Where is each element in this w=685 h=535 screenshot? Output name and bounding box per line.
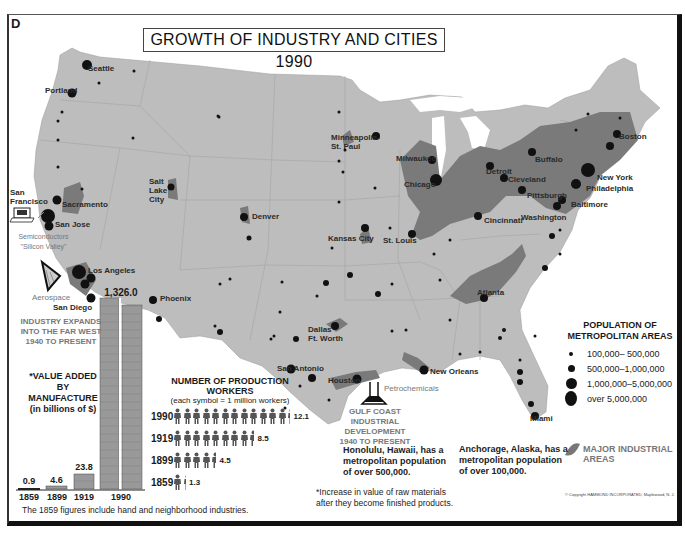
workers-year: 1899: [151, 455, 173, 466]
workers-row: 199012.1: [151, 405, 309, 427]
bar-value-1859: 0.9: [18, 476, 40, 486]
worker-icon: [211, 430, 220, 446]
worker-icon: [202, 408, 211, 424]
city-label: Cincinnati: [484, 216, 523, 225]
city-label: San Jose: [55, 220, 90, 229]
worker-icon: [259, 408, 268, 424]
legend-item-label: 100,000– 500,000: [587, 349, 660, 359]
workers-chart-title: NUMBER OF PRODUCTION WORKERS: [160, 376, 300, 396]
legend-item: 100,000– 500,000: [565, 346, 675, 361]
city-label: Salt Lake City: [149, 177, 167, 204]
worker-icon: [202, 430, 211, 446]
city-label: Portland: [45, 86, 77, 95]
partial-worker-icon: [249, 430, 254, 446]
worker-icon: [268, 408, 277, 424]
partial-worker-icon: [183, 474, 186, 490]
workers-year: 1990: [151, 411, 173, 422]
silicon-valley-label: Semiconductors "Silicon Valley": [6, 232, 81, 252]
city-label: Denver: [252, 212, 279, 221]
city-label: San Antonio: [277, 364, 324, 373]
industrial-areas-legend-label: MAJOR INDUSTRIAL AREAS: [583, 444, 673, 464]
workers-pictogram: 199012.119198.518994.518591.3: [151, 405, 309, 493]
partial-worker-icon: [211, 452, 216, 468]
city-label: Boston: [619, 132, 647, 141]
legend-title: POPULATION OF METROPOLITAN AREAS: [565, 320, 675, 342]
legend-item-label: over 5,000,000: [587, 394, 647, 404]
city-label: San Francisco: [10, 188, 48, 206]
honolulu-note: Honolulu, Hawaii, has a metropolitan pop…: [343, 445, 458, 478]
city-label: Chicago: [404, 180, 436, 189]
city-label: New York: [597, 173, 633, 182]
legend-item-label: 1,000,000–5,000,000: [587, 379, 672, 389]
bar-year-1919: 1919: [72, 492, 96, 502]
city-label: Dallas Ft. Worth: [308, 325, 343, 343]
workers-year: 1859: [151, 477, 173, 488]
bar-value-1990: 1,326.0: [95, 287, 147, 298]
petrochemicals-label: Petrochemicals: [384, 384, 439, 394]
worker-icon: [183, 452, 192, 468]
worker-icon: [221, 430, 230, 446]
copyright: © Copyright HAMMOND INCORPORATED, Maplew…: [565, 492, 675, 497]
population-dot-icon: [568, 365, 575, 372]
legend-item: 1,000,000–5,000,000: [565, 376, 675, 391]
raw-materials-footnote: *Increase in value of raw materials afte…: [316, 487, 476, 509]
worker-icon: [183, 430, 192, 446]
worker-icon: [173, 452, 182, 468]
far-west-note: INDUSTRY EXPANDS INTO THE FAR WEST 1940 …: [20, 317, 102, 347]
workers-year: 1919: [151, 433, 173, 444]
worker-icon: [173, 474, 182, 490]
workers-value: 1.3: [189, 478, 200, 487]
workers-value: 8.5: [258, 434, 269, 443]
city-label: Philadelphia: [586, 184, 633, 193]
population-dot-icon: [569, 352, 573, 356]
worker-icon: [192, 408, 201, 424]
city-label: New Orleans: [430, 367, 478, 376]
panel-letter: D: [11, 16, 20, 31]
city-label: Houston: [328, 376, 360, 385]
worker-icon: [249, 408, 258, 424]
city-label: Seattle: [88, 64, 114, 73]
worker-icon: [240, 430, 249, 446]
bar-value-1919: 23.8: [74, 462, 94, 472]
workers-value: 12.1: [294, 412, 310, 421]
city-label: Pittsburgh: [527, 191, 567, 200]
population-legend: POPULATION OF METROPOLITAN AREAS 100,000…: [565, 320, 675, 406]
population-dot-icon: [566, 378, 577, 389]
legend-rows: 100,000– 500,000500,000–1,000,0001,000,0…: [565, 346, 675, 406]
workers-row: 18591.3: [151, 471, 309, 493]
worker-icon: [202, 452, 211, 468]
city-label: Kansas City: [328, 234, 374, 243]
map-title: GROWTH OF INDUSTRY AND CITIES 1990: [143, 28, 445, 52]
worker-icon: [240, 408, 249, 424]
city-label: Washington: [521, 213, 566, 222]
worker-icon: [211, 408, 220, 424]
city-label: Milwaukee: [396, 154, 436, 163]
bar-year-1990: 1990: [108, 492, 134, 502]
city-label: Minneapolis- St. Paul: [331, 133, 380, 151]
footnote-1859: The 1859 figures include hand and neighb…: [22, 505, 248, 516]
bar-year-1899: 1899: [45, 492, 69, 502]
bar-chart-title: *VALUE ADDED BY MANUFACTURE (in billions…: [24, 371, 102, 415]
worker-icon: [230, 430, 239, 446]
flask-icon: [362, 382, 386, 404]
aerospace-label: Aerospace: [32, 293, 70, 303]
workers-chart-header: NUMBER OF PRODUCTION WORKERS (each symbo…: [160, 376, 300, 406]
population-dot-icon: [565, 391, 577, 406]
city-label: Sacramento: [62, 200, 108, 209]
city-label: Miami: [530, 414, 553, 423]
legend-item: over 5,000,000: [565, 391, 675, 406]
worker-icon: [173, 430, 182, 446]
bar-year-1859: 1859: [17, 492, 41, 502]
worker-icon: [173, 408, 182, 424]
worker-icon: [192, 430, 201, 446]
worker-icon: [278, 408, 287, 424]
workers-value: 4.5: [220, 456, 231, 465]
worker-icon: [192, 452, 201, 468]
gulf-coast-note: GULF COAST INDUSTRIAL DEVELOPMENT 1940 T…: [325, 407, 425, 447]
worker-icon: [221, 408, 230, 424]
bar-chart-title-text: *VALUE ADDED BY MANUFACTURE (in billions…: [24, 371, 102, 415]
bar-value-1899: 4.6: [46, 475, 67, 485]
city-label: Los Angeles: [88, 266, 135, 275]
city-label: Cleveland: [508, 175, 546, 184]
legend-item-label: 500,000–1,000,000: [587, 364, 665, 374]
